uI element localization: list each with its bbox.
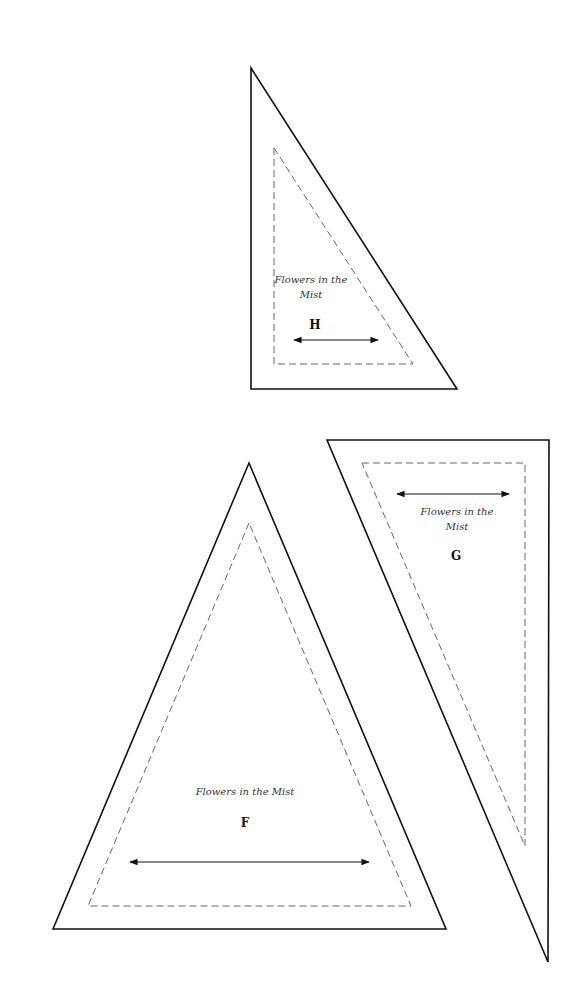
template-title: Flowers in the xyxy=(274,274,348,285)
sewing-line xyxy=(88,523,411,906)
sewing-line xyxy=(274,148,413,364)
cutting-line xyxy=(327,440,549,962)
template-letter: G xyxy=(451,549,461,563)
cutting-line xyxy=(251,68,457,389)
cutting-line xyxy=(53,463,446,929)
template-f: Flowers in the Mist F xyxy=(53,463,446,929)
template-g: Flowers in the Mist G xyxy=(327,440,549,962)
templates-svg: Flowers in the Mist H Flowers in the Mis… xyxy=(0,0,579,987)
template-title-line2: Mist xyxy=(445,521,470,532)
template-letter: H xyxy=(309,318,320,332)
template-title: Flowers in the xyxy=(420,506,494,517)
pattern-page: Flowers in the Mist H Flowers in the Mis… xyxy=(0,0,579,987)
template-h: Flowers in the Mist H xyxy=(251,68,457,389)
template-title: Flowers in the Mist xyxy=(195,786,296,797)
template-title-line2: Mist xyxy=(299,289,324,300)
template-letter: F xyxy=(241,816,250,830)
